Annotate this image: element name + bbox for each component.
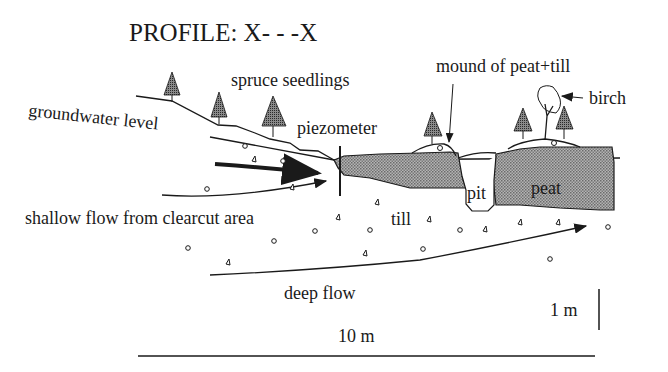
label-shallow-flow: shallow flow from clearcut area	[25, 208, 254, 228]
spruce-tree-icon	[424, 112, 442, 144]
label-birch: birch	[589, 88, 626, 108]
label-groundwater-level: groundwater level	[28, 100, 160, 134]
birch-tree-icon	[538, 86, 561, 140]
label-mound: mound of peat+till	[436, 56, 570, 76]
label-piezometer: piezometer	[297, 118, 377, 138]
label-deep-flow: deep flow	[284, 283, 355, 303]
stone	[438, 146, 443, 151]
spruce-tree-icon	[556, 106, 573, 139]
shallow-flow-bold-arrow	[215, 164, 318, 173]
profile-diagram: PROFILE: X- - -X	[0, 0, 668, 372]
diagram-title: PROFILE: X- - -X	[129, 19, 317, 46]
mound-arrow	[449, 84, 453, 142]
shallow-flow-arrow	[162, 181, 326, 196]
horizontal-scale-label: 10 m	[338, 326, 375, 346]
label-peat: peat	[531, 178, 561, 198]
label-till: till	[391, 209, 411, 229]
surface-between	[458, 153, 496, 158]
spruce-tree-icon	[262, 96, 286, 137]
spruce-tree-icon	[164, 72, 180, 102]
label-spruce-seedlings: spruce seedlings	[231, 70, 349, 90]
label-pit: pit	[467, 183, 486, 203]
vertical-scale-label: 1 m	[550, 300, 578, 320]
birch-arrow	[562, 96, 583, 98]
peat-body-left	[334, 152, 466, 188]
spruce-tree-icon	[514, 108, 532, 139]
spruce-tree-icon	[211, 92, 227, 124]
deep-flow-arrow	[210, 226, 586, 275]
stone	[552, 141, 557, 146]
